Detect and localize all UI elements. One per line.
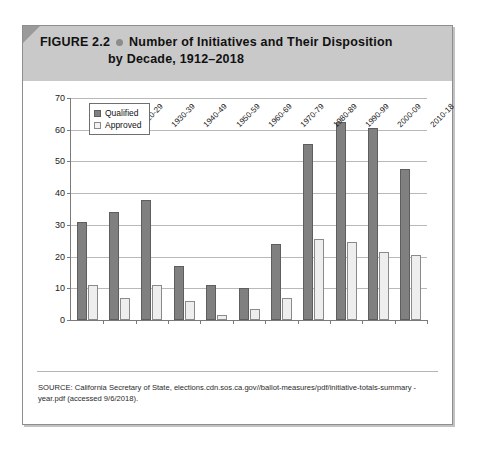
legend-label-qualified: Qualified bbox=[105, 107, 139, 119]
x-tick-mark bbox=[298, 320, 299, 324]
y-tick-label: 60 bbox=[55, 125, 65, 135]
legend-swatch-qualified-icon bbox=[94, 110, 101, 117]
plot-area: 010203040506070 1912-191920-291930-39194… bbox=[70, 98, 427, 321]
legend-label-approved: Approved bbox=[105, 119, 141, 131]
x-tick-mark bbox=[168, 320, 169, 324]
x-tick-mark bbox=[330, 320, 331, 324]
x-tick-mark bbox=[200, 320, 201, 324]
y-tick-label: 40 bbox=[55, 188, 65, 198]
x-tick-mark bbox=[362, 320, 363, 324]
figure-title: FIGURE 2.2Number of Initiatives and Thei… bbox=[40, 34, 442, 68]
x-tick-mark bbox=[427, 320, 428, 324]
figure-number-label: FIGURE 2.2 bbox=[40, 35, 110, 49]
source-divider bbox=[37, 371, 438, 372]
corner-fold-decoration bbox=[23, 26, 40, 43]
bar-approved bbox=[411, 255, 421, 320]
legend-item-approved: Approved bbox=[94, 119, 141, 131]
x-tick-mark bbox=[395, 320, 396, 324]
figure-title-line-1: FIGURE 2.2Number of Initiatives and Thei… bbox=[40, 34, 442, 51]
figure-title-text-2: by Decade, 1912–2018 bbox=[40, 51, 442, 68]
y-tick-label: 20 bbox=[55, 252, 65, 262]
y-tick-label: 0 bbox=[60, 315, 65, 325]
chart-region: 010203040506070 1912-191920-291930-39194… bbox=[23, 81, 452, 424]
x-tick-mark bbox=[136, 320, 137, 324]
filled-circle-icon bbox=[116, 39, 123, 46]
source-note: SOURCE: California Secretary of State, e… bbox=[38, 382, 438, 404]
chart-legend: Qualified Approved bbox=[89, 103, 150, 135]
bar-qualified bbox=[400, 169, 410, 320]
x-tick-mark bbox=[265, 320, 266, 324]
y-tick-label: 70 bbox=[55, 93, 65, 103]
x-tick-label: 2010-18 bbox=[428, 102, 455, 129]
x-tick-mark bbox=[233, 320, 234, 324]
legend-item-qualified: Qualified bbox=[94, 107, 141, 119]
figure-container: FIGURE 2.2Number of Initiatives and Thei… bbox=[22, 25, 453, 425]
figure-title-text-1: Number of Initiatives and Their Disposit… bbox=[129, 35, 393, 49]
x-tick-mark bbox=[103, 320, 104, 324]
y-tick-label: 10 bbox=[55, 283, 65, 293]
y-tick-label: 30 bbox=[55, 220, 65, 230]
figure-title-band: FIGURE 2.2Number of Initiatives and Thei… bbox=[23, 26, 452, 81]
legend-swatch-approved-icon bbox=[94, 122, 101, 129]
y-tick-label: 50 bbox=[55, 156, 65, 166]
y-tick-mark bbox=[67, 320, 71, 321]
